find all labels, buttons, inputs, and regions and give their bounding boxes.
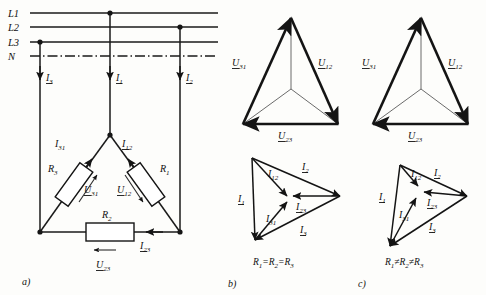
current-label-c-i1: I1 — [378, 191, 386, 205]
label-sub-b-i3: 3 — [302, 230, 307, 238]
label-sub-b-i23: 23 — [299, 207, 307, 215]
junction-dot-l3 — [37, 39, 42, 44]
label-sub-u12: 12 — [124, 190, 132, 198]
label-sub-r1: 1 — [166, 169, 170, 177]
current-label-b-i12: I12 — [267, 168, 279, 182]
phase-current-label-i31: I31 — [54, 138, 65, 152]
label-sub-c-i12: 12 — [414, 174, 422, 182]
panel-c-phasors: U31 U12 U23 — [358, 18, 468, 290]
panel-label-b: b) — [228, 278, 237, 290]
current-diagram-b: I1 I2 I3 I1 — [237, 158, 340, 240]
junction-dot-l2 — [177, 24, 182, 29]
current-edge-b-i1 — [252, 158, 255, 240]
label-sub-u31: 31 — [90, 190, 98, 198]
current-label-b-i23: I23 — [295, 201, 307, 215]
current-label-c-i31: I31 — [398, 209, 409, 223]
voltage-label-c-u23: U23 — [408, 130, 423, 144]
svg-text:I31: I31 — [398, 209, 409, 223]
label-sub-i1: 1 — [119, 78, 123, 86]
svg-text:I31: I31 — [265, 213, 276, 227]
label-sub-c-i31: 31 — [401, 215, 409, 223]
voltage-edge-b-u12 — [291, 18, 338, 124]
technical-diagram: L1 L2 L3 N I3 — [0, 0, 486, 295]
current-label-b-i31: I31 — [265, 213, 276, 227]
panel-a-schematic: L1 L2 L3 N I3 — [7, 8, 218, 288]
voltage-edge-c-u12 — [421, 18, 468, 124]
label-base-r1: R — [159, 163, 166, 174]
current-label-b-i1: I1 — [237, 193, 245, 207]
current-label-c-i23: I23 — [426, 197, 438, 211]
current-diagram-c: I1 I2 I3 I1 — [378, 165, 467, 246]
panel-label-c: c) — [358, 278, 366, 290]
svg-text:I31: I31 — [54, 138, 65, 152]
label-sub-b-u12: 12 — [325, 63, 333, 71]
label-sub-b-i12: 12 — [271, 174, 279, 182]
label-sub-i2: 2 — [189, 78, 193, 86]
rail-label-l1: L1 — [7, 8, 19, 19]
current-edge-b-i2 — [252, 158, 340, 196]
label-sub-c-i3: 3 — [431, 227, 436, 235]
voltage-label-c-u12: U12 — [448, 57, 463, 71]
label-sub-i12: 12 — [125, 144, 133, 152]
voltage-label-c-u31: U31 — [362, 57, 376, 71]
line-current-label-i1: I1 — [115, 72, 123, 86]
voltage-label-b-u31: U31 — [232, 57, 246, 71]
voltage-label-b-u12: U12 — [318, 57, 333, 71]
label-sub-c-u12: 12 — [455, 63, 463, 71]
voltage-triangle-b: U31 U12 U23 — [232, 18, 338, 144]
current-label-b-i2: I2 — [301, 161, 309, 175]
label-sub-c-i1: 1 — [382, 197, 386, 205]
phase-current-label-i12: I12 — [121, 138, 133, 152]
delta-leg-right-lower — [158, 201, 180, 232]
current-label-c-i2: I2 — [433, 167, 441, 181]
voltage-edge-c-u31 — [373, 18, 421, 124]
svg-text:I12: I12 — [267, 168, 279, 182]
rail-label-l2: L2 — [7, 22, 20, 33]
current-label-c-i3: I3 — [428, 221, 436, 235]
label-sub-b-u31: 31 — [238, 63, 246, 71]
caption-b-s3: 3 — [289, 262, 294, 270]
label-sub-i3: 3 — [48, 78, 53, 86]
label-sub-b-i31: 31 — [268, 219, 276, 227]
junction-dot-l1 — [107, 10, 112, 15]
phase-voltage-label-u31: U31 — [84, 184, 98, 198]
label-sub-r3: 3 — [53, 169, 58, 177]
label-sub-b-u23: 23 — [285, 136, 293, 144]
panel-b-phasors: U31 U12 U23 — [228, 18, 340, 290]
rail-label-l3: L3 — [7, 37, 19, 48]
resistor-label-r3: R3 — [47, 163, 58, 177]
phase-current-label-i23: I23 — [139, 240, 151, 254]
resistor-label-r2: R2 — [101, 209, 112, 223]
label-sub-u23: 23 — [103, 265, 111, 273]
voltage-triangle-c: U31 U12 U23 — [362, 18, 468, 144]
line-current-label-i3: I3 — [45, 72, 53, 86]
phase-voltage-label-u12: U12 — [117, 184, 132, 198]
phase-voltage-label-u23: U23 — [96, 259, 111, 273]
voltage-edge-b-u31 — [243, 18, 291, 124]
resistor-r2-body — [86, 223, 134, 241]
label-sub-r2: 2 — [108, 215, 112, 223]
label-sub-c-u23: 23 — [415, 136, 423, 144]
label-sub-b-i2: 2 — [305, 167, 309, 175]
label-base-r2: R — [101, 209, 108, 220]
rail-label-n: N — [7, 51, 16, 62]
delta-leg-left-lower — [40, 201, 62, 232]
label-sub-i23: 23 — [143, 246, 151, 254]
label-sub-c-i2: 2 — [437, 173, 441, 181]
caption-c-s3: 3 — [419, 262, 424, 270]
resistor-label-r1: R1 — [159, 163, 170, 177]
panel-label-a: a) — [22, 276, 31, 288]
label-sub-c-u31: 31 — [368, 63, 376, 71]
label-sub-i31: 31 — [57, 144, 65, 152]
current-label-b-i3: I3 — [299, 224, 307, 238]
label-base-r3: R — [47, 163, 54, 174]
current-edge-c-i1 — [390, 165, 400, 246]
caption-c-unbalanced: R1≠R2≠R3 — [384, 257, 424, 270]
voltage-label-b-u23: U23 — [278, 130, 293, 144]
caption-b-balanced: R1=R2=R3 — [252, 257, 294, 270]
line-current-label-i2: I2 — [185, 72, 193, 86]
label-sub-b-i1: 1 — [241, 199, 245, 207]
figure-canvas: L1 L2 L3 N I3 — [0, 0, 486, 295]
label-sub-c-i23: 23 — [430, 203, 438, 211]
